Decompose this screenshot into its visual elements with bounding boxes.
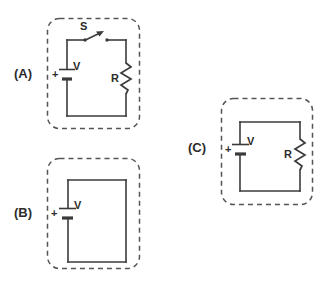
- circuit-a-switch-contact-dot: [105, 38, 108, 41]
- circuit-c-battery-plus-sign: +: [225, 143, 231, 155]
- option-c-group[interactable]: (C) + V R: [188, 99, 313, 205]
- option-a-label: (A): [14, 66, 32, 81]
- figure-canvas: (A) + V R S: [0, 0, 332, 287]
- circuit-a-resistor-label: R: [111, 72, 119, 84]
- option-b-label: (B): [14, 205, 32, 220]
- circuit-c-battery-label: V: [247, 135, 255, 147]
- option-a-group[interactable]: (A) + V R S: [14, 19, 140, 129]
- circuit-b-battery-plus-sign: +: [51, 207, 57, 219]
- circuit-a-battery-plus-sign: +: [52, 68, 58, 80]
- option-c-label: (C): [188, 140, 206, 155]
- circuit-c-resistor-label: R: [284, 148, 292, 160]
- option-b-group[interactable]: (B) + V: [14, 159, 140, 269]
- circuit-a-battery-label: V: [73, 60, 81, 72]
- circuit-a-resistor-symbol: [121, 63, 131, 94]
- circuit-a-switch-label: S: [80, 20, 87, 32]
- circuit-a-switch[interactable]: [83, 31, 108, 42]
- circuit-b-battery-label: V: [74, 199, 82, 211]
- circuit-c-resistor-symbol: [295, 139, 305, 170]
